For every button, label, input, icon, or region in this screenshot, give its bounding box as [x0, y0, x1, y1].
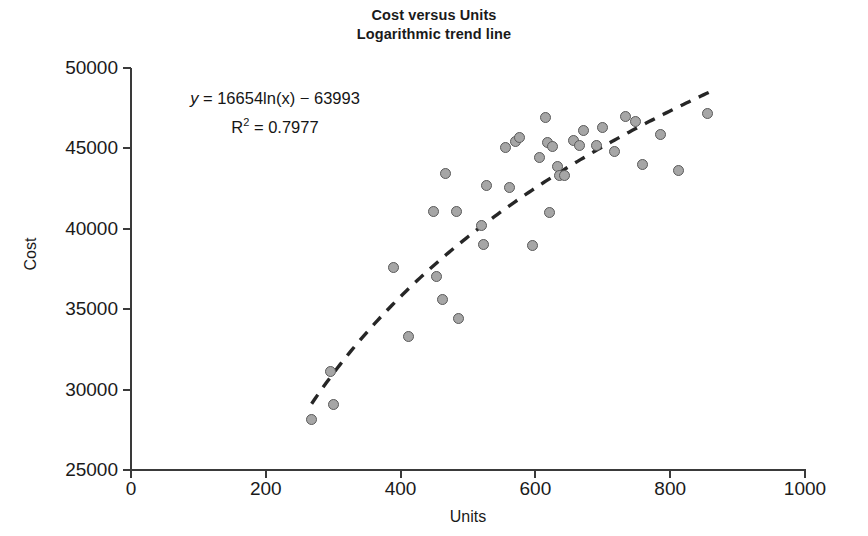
y-tick-mark: [123, 389, 131, 391]
scatter-chart: Cost versus Units Logarithmic trend line…: [0, 0, 868, 536]
data-point: [547, 141, 558, 152]
y-axis-title: Cost: [22, 204, 40, 304]
x-axis-title: Units: [131, 508, 805, 526]
data-point: [597, 122, 608, 133]
data-point: [328, 399, 339, 410]
data-point: [559, 170, 570, 181]
x-tick-mark: [534, 470, 536, 478]
data-point: [540, 112, 551, 123]
x-tick-label: 400: [356, 479, 446, 498]
data-point: [325, 366, 336, 377]
data-point: [534, 152, 545, 163]
plot-area: [131, 68, 805, 470]
data-point: [630, 116, 641, 127]
x-tick-label: 600: [490, 479, 580, 498]
x-tick-label: 200: [221, 479, 311, 498]
data-point: [673, 165, 684, 176]
y-tick-label: 30000: [18, 380, 118, 399]
x-tick-mark: [669, 470, 671, 478]
data-point: [620, 111, 631, 122]
data-point: [440, 168, 451, 179]
data-point: [514, 132, 525, 143]
data-point: [574, 140, 585, 151]
y-tick-label: 25000: [18, 460, 118, 479]
x-tick-label: 0: [86, 479, 176, 498]
y-tick-mark: [123, 147, 131, 149]
data-point: [453, 313, 464, 324]
x-tick-label: 800: [625, 479, 715, 498]
data-point: [591, 140, 602, 151]
chart-title: Cost versus Units Logarithmic trend line: [0, 6, 868, 44]
chart-title-line1: Cost versus Units: [372, 7, 497, 23]
data-point: [609, 146, 620, 157]
data-point: [544, 207, 555, 218]
data-point: [637, 159, 648, 170]
y-tick-mark: [123, 67, 131, 69]
x-tick-label: 1000: [760, 479, 850, 498]
data-point: [655, 129, 666, 140]
data-point: [451, 206, 462, 217]
x-tick-mark: [265, 470, 267, 478]
data-point: [437, 294, 448, 305]
data-point: [306, 414, 317, 425]
x-tick-mark: [130, 470, 132, 478]
data-point: [428, 206, 439, 217]
x-tick-mark: [804, 470, 806, 478]
data-point: [476, 220, 487, 231]
data-point: [478, 239, 489, 250]
y-tick-mark: [123, 228, 131, 230]
data-point: [481, 180, 492, 191]
y-tick-mark: [123, 308, 131, 310]
y-tick-label: 45000: [18, 138, 118, 157]
data-point: [504, 182, 515, 193]
data-point: [403, 331, 414, 342]
chart-title-line2: Logarithmic trend line: [0, 25, 868, 44]
x-tick-mark: [400, 470, 402, 478]
data-point: [578, 125, 589, 136]
data-point: [431, 271, 442, 282]
y-tick-label: 50000: [18, 58, 118, 77]
data-point: [527, 240, 538, 251]
data-point: [388, 262, 399, 273]
data-point: [702, 108, 713, 119]
